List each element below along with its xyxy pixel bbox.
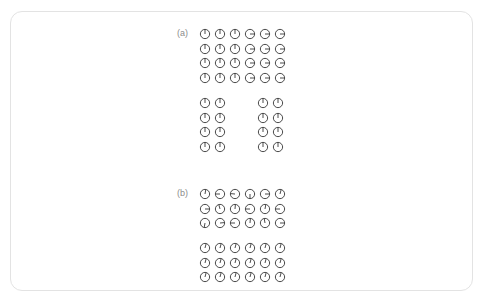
- spin-dial: [259, 257, 271, 269]
- spin-dial: [214, 112, 226, 124]
- spin-dial: [199, 257, 211, 269]
- spin-dial: [257, 141, 269, 153]
- spin-dial: [274, 242, 286, 254]
- spin-dial: [257, 126, 269, 138]
- spin-dial: [214, 28, 226, 40]
- spin-dial: [244, 242, 256, 254]
- spin-dial: [214, 242, 226, 254]
- spin-dial: [199, 141, 211, 153]
- spin-dial: [229, 217, 241, 229]
- spin-grid-a-bottom-right: [257, 97, 284, 153]
- spin-dial: [214, 43, 226, 55]
- spin-dial: [274, 43, 286, 55]
- spin-dial: [274, 271, 286, 283]
- spin-dial: [244, 28, 256, 40]
- spin-dial: [259, 28, 271, 40]
- spin-dial: [199, 112, 211, 124]
- spin-dial: [229, 188, 241, 200]
- spin-dial: [229, 271, 241, 283]
- spin-grid-a-bottom-left: [199, 97, 226, 153]
- spin-dial: [259, 242, 271, 254]
- spin-grid-a-top: [199, 28, 286, 84]
- figure-label-b: (b): [177, 187, 188, 199]
- spin-dial: [244, 43, 256, 55]
- spin-grid-a-bottom: [199, 97, 284, 153]
- spin-dial: [214, 57, 226, 69]
- spin-dial: [199, 217, 211, 229]
- spin-dial: [257, 97, 269, 109]
- spin-dial: [259, 203, 271, 215]
- spin-dial: [199, 28, 211, 40]
- spin-dial: [244, 57, 256, 69]
- spin-dial: [214, 203, 226, 215]
- spin-dial: [199, 72, 211, 84]
- spin-dial: [274, 57, 286, 69]
- spin-dial: [214, 141, 226, 153]
- spin-dial: [259, 271, 271, 283]
- spin-dial: [244, 271, 256, 283]
- spin-dial: [214, 126, 226, 138]
- spin-dial: [214, 72, 226, 84]
- spin-dial: [199, 203, 211, 215]
- figure-label-a: (a): [177, 27, 188, 39]
- spin-dial: [274, 28, 286, 40]
- spin-dial: [214, 97, 226, 109]
- spin-dial: [259, 217, 271, 229]
- spin-dial: [199, 188, 211, 200]
- spin-dial: [272, 126, 284, 138]
- spin-dial: [274, 72, 286, 84]
- spin-dial: [274, 188, 286, 200]
- spin-dial: [199, 242, 211, 254]
- spin-dial: [214, 217, 226, 229]
- spin-dial: [244, 217, 256, 229]
- spin-dial: [199, 271, 211, 283]
- spin-dial: [274, 203, 286, 215]
- spin-grid-b-bottom: [199, 242, 286, 283]
- spin-dial: [214, 271, 226, 283]
- spin-dial: [257, 112, 269, 124]
- spin-dial: [214, 188, 226, 200]
- spin-dial: [272, 112, 284, 124]
- spin-dial: [229, 72, 241, 84]
- spin-dial: [214, 257, 226, 269]
- figure-card: (a) (b): [10, 11, 473, 291]
- spin-dial: [244, 72, 256, 84]
- spin-dial: [199, 126, 211, 138]
- spin-dial: [272, 141, 284, 153]
- spin-dial: [244, 203, 256, 215]
- spin-dial: [244, 188, 256, 200]
- spin-dial: [229, 242, 241, 254]
- spin-dial: [199, 43, 211, 55]
- spin-dial: [259, 188, 271, 200]
- spin-dial: [229, 28, 241, 40]
- spin-dial: [229, 43, 241, 55]
- spin-dial: [199, 57, 211, 69]
- spin-dial: [229, 257, 241, 269]
- spin-dial: [272, 97, 284, 109]
- spin-dial: [229, 57, 241, 69]
- spin-dial: [259, 72, 271, 84]
- spin-dial: [229, 203, 241, 215]
- spin-dial: [274, 217, 286, 229]
- spin-dial: [259, 43, 271, 55]
- spin-dial: [199, 97, 211, 109]
- spin-grid-b-top: [199, 188, 286, 229]
- spin-dial: [244, 257, 256, 269]
- spin-dial: [274, 257, 286, 269]
- spin-dial: [259, 57, 271, 69]
